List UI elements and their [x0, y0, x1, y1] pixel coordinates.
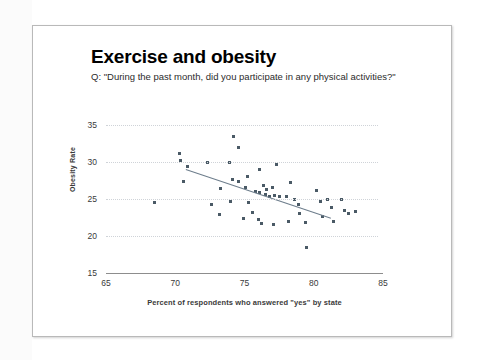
scatter-point — [354, 210, 357, 213]
scatter-point — [258, 168, 261, 171]
scatter-point — [251, 211, 254, 214]
scatter-point — [229, 200, 232, 203]
scatter-point — [242, 217, 245, 220]
slide-frame: Exercise and obesity Q: "During the past… — [32, 25, 452, 337]
scatter-point — [305, 246, 308, 249]
y-axis-tick-label: 15 — [71, 268, 97, 278]
scatter-point — [246, 175, 249, 178]
scatter-point — [257, 218, 260, 221]
scatter-point — [287, 220, 290, 223]
trend-line — [186, 169, 332, 219]
scatter-point — [153, 201, 156, 204]
y-axis-tick-label: 25 — [71, 194, 97, 204]
scatter-point — [343, 209, 346, 212]
scatter-point — [237, 146, 240, 149]
x-axis-tick-label: 70 — [160, 278, 190, 288]
x-axis-tick-label: 80 — [299, 278, 329, 288]
scatter-point — [319, 200, 322, 203]
scatter-point — [247, 201, 250, 204]
scatter-point — [332, 220, 335, 223]
scatter-point — [330, 206, 333, 209]
y-axis-tick-label: 20 — [71, 231, 97, 241]
gridline-y — [106, 162, 378, 163]
scatter-point — [232, 135, 235, 138]
scatter-point — [186, 165, 189, 168]
x-axis-tick-label: 65 — [91, 278, 121, 288]
scatter-point — [289, 181, 292, 184]
scatter-canvas — [33, 26, 453, 338]
scatter-point — [178, 152, 181, 155]
chart-plot-area: Obesity Rate Percent of respondents who … — [33, 26, 453, 338]
scatter-point — [265, 188, 268, 191]
scatter-point — [271, 186, 274, 189]
gridline-y — [106, 199, 378, 200]
scatter-point — [285, 195, 288, 198]
scatter-point — [278, 195, 281, 198]
scatter-point — [260, 222, 263, 225]
page-left-margin — [0, 0, 32, 360]
gridline-y — [106, 236, 378, 237]
scatter-point — [210, 203, 213, 206]
scatter-point — [218, 213, 221, 216]
scatter-point — [298, 212, 301, 215]
scatter-point — [237, 180, 240, 183]
scatter-point — [219, 187, 222, 190]
scatter-point — [272, 223, 275, 226]
x-axis-tick-label: 75 — [230, 278, 260, 288]
x-axis-line — [106, 273, 383, 274]
scatter-point — [304, 221, 307, 224]
x-axis-tick-label: 85 — [368, 278, 398, 288]
scatter-point — [275, 163, 278, 166]
scatter-point — [182, 180, 185, 183]
scatter-point — [231, 178, 234, 181]
scatter-point — [315, 189, 318, 192]
y-axis-tick-label: 35 — [71, 120, 97, 130]
scatter-point — [273, 194, 276, 197]
x-axis-title: Percent of respondents who answered "yes… — [106, 298, 383, 307]
gridline-y — [106, 125, 378, 126]
y-axis-tick-label: 30 — [71, 157, 97, 167]
scatter-point — [262, 184, 265, 187]
scatter-point — [347, 212, 350, 215]
